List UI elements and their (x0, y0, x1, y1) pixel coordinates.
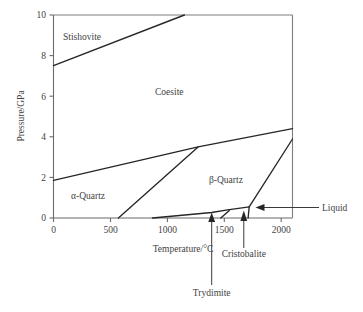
boundary-trydimite-cristobalite (221, 211, 230, 219)
phase-diagram-canvas: 0 2 4 6 8 10 0 500 1000 1500 2000 Temper… (0, 0, 363, 312)
callout-label-trydimite: Trydimite (193, 288, 231, 298)
y-tick-label-0: 0 (41, 213, 46, 223)
x-tick-label-1500: 1500 (215, 225, 234, 235)
boundary-coesite-quartz (54, 129, 293, 181)
y-tick-label-8: 8 (41, 51, 46, 61)
x-tick-label-1000: 1000 (158, 225, 177, 235)
region-label-coesite: Coesite (155, 87, 184, 97)
x-tick-label-500: 500 (103, 225, 118, 235)
phase-boundaries (54, 15, 293, 218)
boundary-alpha-beta-quartz (118, 147, 198, 218)
y-tick-label-2: 2 (41, 173, 46, 183)
boundary-cristobalite-stub (248, 207, 249, 218)
y-tick-label-10: 10 (37, 10, 47, 20)
callout-liquid: Liquid (256, 203, 348, 213)
region-labels: Stishovite Coesite α-Quartz β-Quartz (63, 32, 243, 201)
boundary-betaquartz-trydimite-cristobalite (153, 207, 250, 218)
cristobalite-arrow-icon (240, 211, 247, 222)
liquid-arrow-icon (256, 204, 265, 211)
y-axis-ticks: 0 2 4 6 8 10 (37, 10, 54, 223)
region-label-beta-quartz: β-Quartz (209, 175, 243, 185)
callout-label-liquid: Liquid (322, 203, 348, 213)
y-axis-title: Pressure/GPa (16, 90, 26, 142)
region-label-stishovite: Stishovite (63, 32, 101, 42)
trydimite-arrow-icon (208, 213, 215, 223)
x-axis-ticks: 0 500 1000 1500 2000 (51, 218, 291, 235)
y-tick-label-6: 6 (41, 92, 46, 102)
callout-label-cristobalite: Cristobalite (222, 249, 266, 259)
x-tick-label-0: 0 (51, 225, 56, 235)
boundary-melting-curve (249, 139, 292, 207)
phase-diagram-figure: 0 2 4 6 8 10 0 500 1000 1500 2000 Temper… (0, 0, 363, 312)
y-tick-label-4: 4 (41, 132, 46, 142)
plot-frame (54, 15, 293, 218)
region-label-alpha-quartz: α-Quartz (71, 191, 105, 201)
x-axis-title: Temperature/°C (153, 244, 214, 254)
x-tick-label-2000: 2000 (272, 225, 291, 235)
